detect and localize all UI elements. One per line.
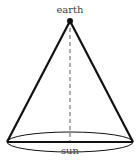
apex-label: earth	[56, 4, 84, 15]
cone-right-edge	[70, 21, 133, 142]
apex-point	[67, 18, 73, 24]
cone-left-edge	[7, 21, 70, 142]
base-label: sun	[61, 145, 80, 156]
cone-diagram: earth sun	[0, 0, 140, 165]
